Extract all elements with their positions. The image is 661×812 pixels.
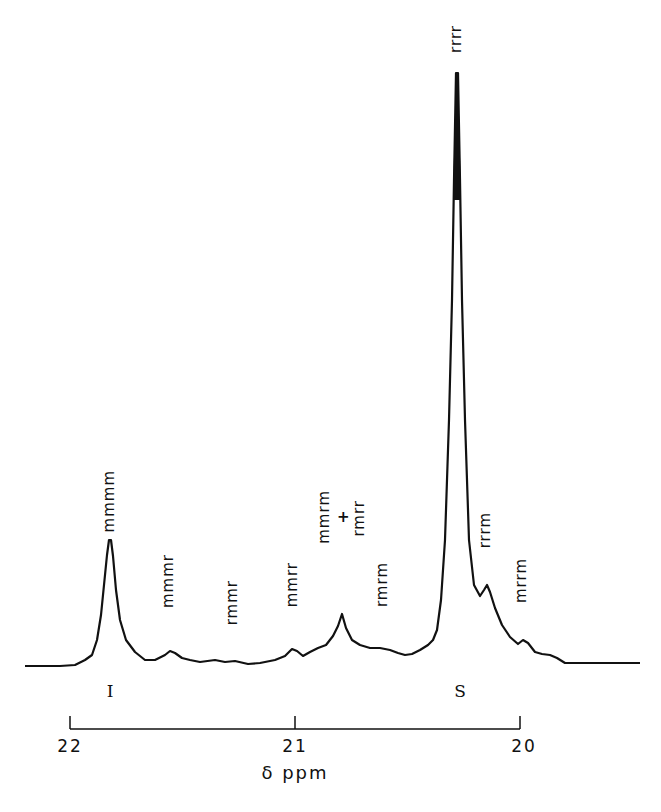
peak-label-rmrm: rmrm <box>375 562 390 607</box>
nmr-spectrum-plot <box>0 0 661 812</box>
peak-label-rmrr: rmrr <box>352 500 367 537</box>
peak-label-mmrm: mmrm <box>317 490 332 544</box>
spectrum-trace <box>25 73 640 666</box>
peak-label-mmrr: mmrr <box>285 562 300 607</box>
peak-label-mrrm: mrrm <box>514 558 529 603</box>
syndiotactic-marker: S <box>454 681 466 701</box>
peak-label-rmmr: rmmr <box>225 580 240 625</box>
x-tick-label-21: 21 <box>282 736 308 756</box>
x-axis-label: δ ppm <box>261 762 328 783</box>
peak-label-mmmr: mmmr <box>161 554 176 608</box>
x-tick-label-22: 22 <box>57 736 83 756</box>
peak-label-mmmm: mmmm <box>102 470 117 532</box>
peak-label-rrrm: rrrm <box>478 512 493 548</box>
peak-label-rrrr: rrrr <box>449 25 464 53</box>
isotactic-marker: I <box>107 681 114 701</box>
x-tick-label-20: 20 <box>511 736 537 756</box>
peak-label-plus: + <box>337 508 350 526</box>
